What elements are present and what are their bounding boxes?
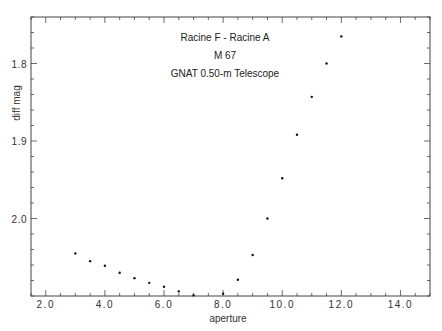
data-point	[104, 265, 106, 267]
y-axis-tick-labels: 1.81.92.0	[12, 59, 27, 225]
data-point	[340, 35, 342, 37]
annotation-telescope: GNAT 0.50-m Telescope	[171, 68, 280, 79]
data-point	[133, 277, 135, 279]
data-point	[281, 177, 283, 179]
x-tick-label: 8.0	[214, 299, 232, 310]
x-axis-title: aperture	[209, 313, 247, 324]
x-axis-tick-labels: 2.04.06.08.010.012.014.0	[37, 299, 414, 310]
x-tick-label: 12.0	[329, 299, 354, 310]
data-point	[266, 217, 268, 219]
data-point	[163, 286, 165, 288]
x-tick-label: 10.0	[269, 299, 294, 310]
data-point	[148, 282, 150, 284]
annotation-cluster: M 67	[214, 50, 237, 61]
data-point	[325, 62, 327, 64]
y-axis-title: diff mag	[11, 85, 22, 120]
data-point	[296, 134, 298, 136]
x-tick-label: 2.0	[37, 299, 55, 310]
data-point	[178, 290, 180, 292]
data-point	[251, 254, 253, 256]
data-point	[222, 292, 224, 294]
y-tick-label: 1.8	[12, 59, 27, 70]
x-tick-label: 4.0	[96, 299, 114, 310]
data-point	[311, 96, 313, 98]
data-point	[237, 279, 239, 281]
x-tick-label: 6.0	[155, 299, 173, 310]
x-tick-label: 14.0	[388, 299, 413, 310]
y-tick-label: 2.0	[12, 214, 27, 225]
data-point	[74, 252, 76, 254]
chart: 2.04.06.08.010.012.014.0 1.81.92.0 Racin…	[0, 0, 442, 331]
y-tick-label: 1.9	[12, 136, 27, 147]
data-point	[89, 260, 91, 262]
data-point	[118, 272, 120, 274]
data-point	[192, 294, 194, 296]
annotation-stars: Racine F - Racine A	[181, 32, 270, 43]
